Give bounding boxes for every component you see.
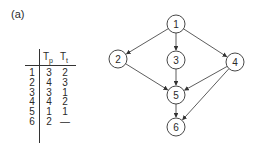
svg-text:5: 5 <box>173 90 179 101</box>
node-1: 1 <box>167 15 185 33</box>
svg-text:2: 2 <box>115 54 121 65</box>
edge-4-6 <box>183 69 229 120</box>
svg-text:4: 4 <box>232 57 238 68</box>
node-5: 5 <box>167 86 185 104</box>
edge-1-2 <box>127 29 169 54</box>
node-3: 3 <box>167 51 185 69</box>
edge-2-5 <box>126 64 168 90</box>
svg-text:1: 1 <box>173 19 179 30</box>
node-2: 2 <box>109 50 127 68</box>
edge-1-4 <box>184 29 227 57</box>
node-6: 6 <box>167 118 185 136</box>
task-graph: 123456 <box>0 0 258 145</box>
node-4: 4 <box>226 53 244 71</box>
svg-text:3: 3 <box>173 55 179 66</box>
svg-text:6: 6 <box>173 122 179 133</box>
